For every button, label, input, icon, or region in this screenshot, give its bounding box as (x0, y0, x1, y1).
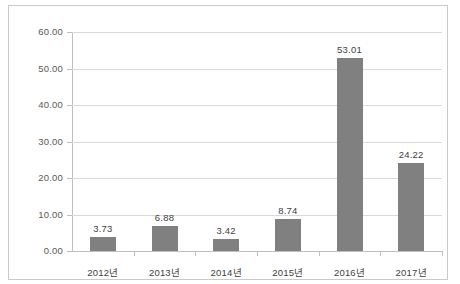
x-tick-mark (319, 251, 320, 256)
y-tick-mark (67, 105, 72, 106)
bar-2013년[interactable] (152, 226, 178, 251)
gridline-50.00 (72, 69, 442, 70)
y-axis-label: 20.00 (19, 172, 63, 183)
x-tick-mark (257, 251, 258, 256)
gridline-40.00 (72, 105, 442, 106)
y-axis-label: 30.00 (19, 136, 63, 147)
bar-2016년[interactable] (337, 58, 363, 251)
y-tick-mark (67, 251, 72, 252)
data-label-2014년: 3.42 (196, 225, 256, 236)
y-tick-mark (67, 178, 72, 179)
y-axis-label: 10.00 (19, 209, 63, 220)
gridline-60.00 (72, 32, 442, 33)
gridline-20.00 (72, 178, 442, 179)
x-axis-label-2012년: 2012년 (68, 265, 138, 279)
x-axis-label-2015년: 2015년 (253, 265, 323, 279)
bar-2014년[interactable] (213, 239, 239, 251)
bar-2017년[interactable] (398, 163, 424, 251)
x-tick-mark (195, 251, 196, 256)
y-axis-label: 60.00 (19, 26, 63, 37)
x-axis-label-2013년: 2013년 (130, 265, 200, 279)
bar-2012년[interactable] (90, 237, 116, 251)
data-label-2013년: 6.88 (135, 212, 195, 223)
data-label-2012년: 3.73 (73, 223, 133, 234)
y-tick-mark (67, 32, 72, 33)
data-label-2017년: 24.22 (381, 149, 441, 160)
data-label-2015년: 8.74 (258, 205, 318, 216)
x-tick-mark (134, 251, 135, 256)
x-tick-mark (380, 251, 381, 256)
data-label-2016년: 53.01 (320, 44, 380, 55)
x-axis-label-2017년: 2017년 (376, 265, 446, 279)
x-axis-label-2016년: 2016년 (315, 265, 385, 279)
y-axis-label: 40.00 (19, 99, 63, 110)
bar-2015년[interactable] (275, 219, 301, 251)
x-axis-label-2014년: 2014년 (191, 265, 261, 279)
y-tick-mark (67, 69, 72, 70)
gridline-30.00 (72, 142, 442, 143)
y-tick-mark (67, 142, 72, 143)
y-axis-label: 0.00 (19, 245, 63, 256)
chart-frame: 60.0050.0040.0030.0020.0010.000.00 3.736… (8, 5, 448, 280)
x-tick-mark (442, 251, 443, 256)
plot-area: 3.736.883.428.7453.0124.22 (72, 32, 442, 251)
y-axis-label: 50.00 (19, 63, 63, 74)
y-tick-mark (67, 215, 72, 216)
y-axis-tick-labels: 60.0050.0040.0030.0020.0010.000.00 (15, 6, 63, 281)
